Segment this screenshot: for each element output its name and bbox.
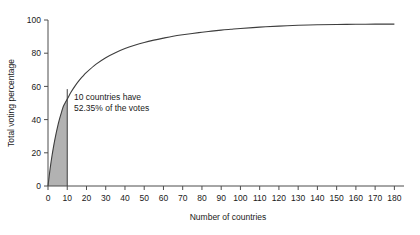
x-tick-label: 50 xyxy=(139,193,149,203)
y-tick-label: 40 xyxy=(32,115,42,125)
x-tick-label: 30 xyxy=(101,193,111,203)
x-tick-label: 40 xyxy=(120,193,130,203)
x-tick-label: 120 xyxy=(272,193,286,203)
x-tick-label: 60 xyxy=(159,193,169,203)
x-axis-ticks: 0102030405060708090100110120130140150160… xyxy=(46,186,402,203)
x-tick-label: 20 xyxy=(82,193,92,203)
y-tick-label: 60 xyxy=(32,82,42,92)
x-axis: 0102030405060708090100110120130140150160… xyxy=(46,186,404,203)
y-axis-ticks: 020406080100 xyxy=(27,15,48,191)
x-tick-label: 90 xyxy=(216,193,226,203)
y-tick-label: 0 xyxy=(36,181,41,191)
shaded-region-path xyxy=(48,99,67,186)
x-tick-label: 0 xyxy=(46,193,51,203)
x-tick-label: 100 xyxy=(233,193,247,203)
callout-line-1: 10 countries have xyxy=(74,92,141,102)
x-tick-label: 70 xyxy=(178,193,188,203)
x-tick-label: 170 xyxy=(368,193,382,203)
x-tick-label: 80 xyxy=(197,193,207,203)
callout-line-2: 52.35% of the votes xyxy=(74,103,149,113)
y-axis-title: Total voting percentage xyxy=(6,59,16,147)
x-tick-label: 150 xyxy=(330,193,344,203)
x-tick-label: 110 xyxy=(253,193,267,203)
x-axis-title: Number of countries xyxy=(190,212,267,222)
voting-percentage-line-chart: 020406080100 010203040506070809010011012… xyxy=(0,0,420,235)
x-tick-label: 10 xyxy=(63,193,73,203)
y-tick-label: 20 xyxy=(32,148,42,158)
y-tick-label: 100 xyxy=(27,15,41,25)
y-axis: 020406080100 xyxy=(27,15,48,191)
x-tick-label: 130 xyxy=(291,193,305,203)
x-tick-label: 160 xyxy=(349,193,363,203)
y-tick-label: 80 xyxy=(32,48,42,58)
chart-container: 020406080100 010203040506070809010011012… xyxy=(0,0,420,235)
x-tick-label: 140 xyxy=(310,193,324,203)
shaded-area xyxy=(48,99,67,186)
x-tick-label: 180 xyxy=(387,193,401,203)
